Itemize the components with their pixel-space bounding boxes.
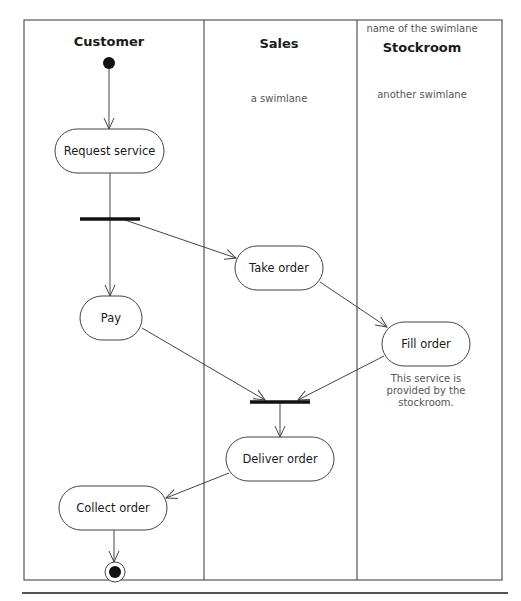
flow-fill-order-to-join <box>298 356 384 400</box>
activity-label: Request service <box>64 144 156 158</box>
activity-label: Collect order <box>76 501 150 515</box>
flow-take-order-to-fill-order <box>320 282 387 327</box>
annotation-note: This service isprovided by thestockroom. <box>387 373 466 408</box>
activity-label: Fill order <box>401 337 451 351</box>
activity-deliver-order: Deliver order <box>226 437 334 481</box>
flow-fork-to-take-order <box>122 219 236 258</box>
activity-collect-order: Collect order <box>59 486 167 530</box>
swimlane-customer: Customer <box>74 34 145 49</box>
swimlane-title: Stockroom <box>383 40 462 55</box>
swimlane-headers: CustomerSalesa swimlaneStockroomanother … <box>74 23 478 104</box>
activity-diagram: CustomerSalesa swimlaneStockroomanother … <box>0 0 521 601</box>
swimlane-title: Customer <box>74 34 145 49</box>
flow-deliver-order-to-collect-order <box>166 473 229 498</box>
initial-node <box>103 57 115 69</box>
swimlane-note: a swimlane <box>251 93 308 104</box>
swimlane-title: Sales <box>259 36 298 51</box>
swimlane-note: another swimlane <box>377 89 467 100</box>
activity-label: Take order <box>248 261 309 275</box>
final-node <box>109 566 121 578</box>
swimlane-sales: Salesa swimlane <box>251 36 308 104</box>
activity-nodes: Request serviceTake orderPayFill orderDe… <box>55 57 470 582</box>
activity-label: Pay <box>101 311 121 325</box>
annotation-line: stockroom. <box>398 397 454 408</box>
activity-take-order: Take order <box>235 246 323 290</box>
activity-label: Deliver order <box>242 452 318 466</box>
swimlane-name-callout: name of the swimlane <box>366 23 477 34</box>
activity-fill-order: Fill order <box>382 322 470 366</box>
annotation-line: provided by the <box>387 385 466 396</box>
activity-pay: Pay <box>80 296 142 340</box>
swimlane-stockroom: Stockroomanother swimlanename of the swi… <box>366 23 477 100</box>
annotation-line: This service is <box>390 373 462 384</box>
activity-request-service: Request service <box>55 129 164 173</box>
